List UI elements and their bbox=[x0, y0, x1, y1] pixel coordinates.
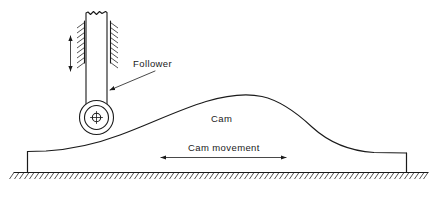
follower-label: Follower bbox=[133, 58, 172, 69]
follower-leader-line bbox=[110, 71, 155, 90]
ground-hatch-marks bbox=[10, 173, 429, 180]
cam-movement-label: Cam movement bbox=[188, 142, 260, 153]
cam-label: Cam bbox=[211, 113, 232, 124]
cam-follower-diagram: Follower Cam Cam movement bbox=[0, 0, 439, 200]
guide-left-hatch bbox=[77, 23, 85, 69]
guide-right-hatch bbox=[111, 23, 119, 69]
ground-line-hatched bbox=[10, 173, 429, 180]
roller-wheel bbox=[80, 101, 114, 135]
diagram-canvas: Follower Cam Cam movement bbox=[0, 0, 439, 200]
